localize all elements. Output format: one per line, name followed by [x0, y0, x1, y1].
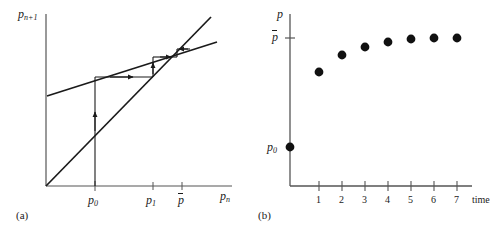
- panel-b-tick-label-pbar: p: [272, 31, 278, 43]
- panel-a-tick-label-pbar: p: [178, 194, 184, 206]
- panel-a-x-axis-label: pn: [220, 190, 230, 204]
- panel-b-tick-label-2: 2: [339, 194, 344, 205]
- panel-b-tick-label-4: 4: [385, 194, 390, 205]
- panel-a-tick-label-p1: p1: [146, 194, 156, 208]
- figure-container: pn+1 pn p0 p1 p (a): [0, 0, 500, 230]
- data-point-1: [315, 68, 324, 77]
- panel-b-svg: [250, 0, 500, 230]
- panel-b-tick-label-7: 7: [454, 194, 459, 205]
- panel-b-tag: (b): [258, 209, 271, 221]
- panel-b-tick-label-6: 6: [431, 194, 436, 205]
- data-point-5: [407, 35, 416, 44]
- panel-b-data-points: [286, 34, 462, 152]
- panel-a-tag: (a): [16, 209, 28, 221]
- panel-a-cobweb-diagram: pn+1 pn p0 p1 p (a): [0, 0, 250, 230]
- data-point-4: [384, 38, 393, 47]
- panel-a-axes: [46, 14, 232, 186]
- panel-b-label-p0: p0: [267, 141, 277, 155]
- identity-line: [46, 17, 211, 186]
- cobweb-path: [95, 49, 190, 186]
- data-point-2: [338, 51, 347, 60]
- panel-a-svg: [0, 0, 250, 230]
- panel-b-y-axis-label: p: [277, 8, 283, 20]
- panel-a-y-axis-label: pn+1: [18, 8, 37, 22]
- panel-a-tick-label-p0: p0: [88, 194, 98, 208]
- panel-b-tick-label-3: 3: [362, 194, 367, 205]
- data-point-3: [361, 43, 370, 52]
- panel-b-x-axis-label: time: [472, 194, 490, 205]
- panel-b-time-series: p p p0 1 2 3 4 5 6 7 time (b): [250, 0, 500, 230]
- data-point-6: [430, 34, 439, 43]
- data-point-7: [453, 34, 462, 43]
- data-point-0: [286, 143, 295, 152]
- panel-b-axes: [290, 14, 472, 186]
- panel-b-tick-label-5: 5: [408, 194, 413, 205]
- map-function-line: [47, 42, 217, 96]
- panel-b-tick-label-1: 1: [316, 194, 321, 205]
